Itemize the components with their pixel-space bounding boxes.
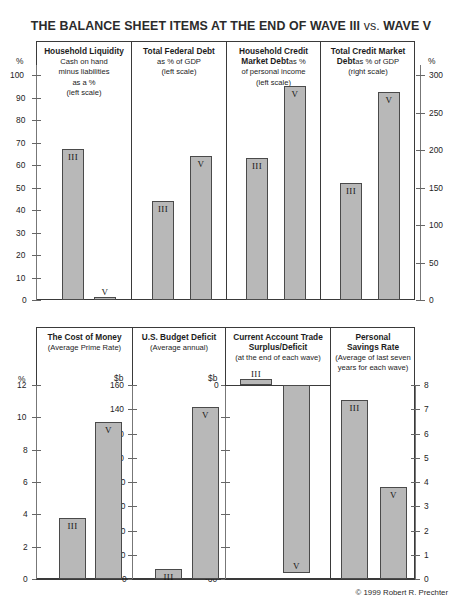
bottom-usd-axis	[132, 385, 133, 579]
bottom-savings-tick-7: 7	[424, 405, 429, 413]
bar-label-V: V	[381, 490, 406, 500]
bottom-pct-tick-12: 12	[17, 381, 26, 389]
bar-cost-of-money-III: III	[59, 518, 86, 579]
panel-personal-savings-title2: Savings Rate	[347, 342, 399, 352]
panel-total-federal-debt-header: Total Federal Debt as % of GDP (left sca…	[133, 46, 225, 77]
bottom-divider-3	[330, 327, 331, 579]
panel-total-credit-market-title: Total Credit Market	[331, 46, 406, 56]
panel-total-federal-debt-sub-1: (left scale)	[161, 67, 196, 76]
copyright-notice: © 1999 Robert R. Prechter	[356, 588, 448, 597]
bottom-usd-tick-0: 0	[122, 575, 127, 583]
panel-personal-savings-sub-0: (Average of last seven	[335, 353, 410, 362]
top-divider-2	[226, 41, 227, 300]
chart-page: THE BALANCE SHEET ITEMS AT THE END OF WA…	[0, 0, 462, 611]
bar-label-III: III	[60, 521, 85, 531]
bar-total-federal-debt-III: III	[152, 201, 174, 300]
bottom-pct-tick-10: 10	[17, 413, 26, 421]
top-right-axis	[420, 65, 421, 300]
bar-personal-savings-V: V	[380, 487, 407, 579]
panel-total-credit-market-title2: Debt	[337, 56, 355, 66]
top-left-tick-30: 30	[16, 229, 25, 237]
bottom-trade-tick-0: 0	[214, 381, 219, 389]
panel-total-federal-debt-title: Total Federal Debt	[143, 46, 215, 56]
bar-total-federal-debt-V: V	[190, 156, 212, 300]
bar-label-V: V	[96, 425, 121, 435]
bottom-savings-tick-2: 2	[424, 527, 429, 535]
panel-household-credit-sub-0: as %	[289, 57, 306, 66]
bottom-savings-tick-1: 1	[424, 551, 429, 559]
panel-current-account-title2: Surplus/Deficit	[249, 342, 308, 352]
bar-us-budget-deficit-III: III	[155, 569, 182, 579]
bar-label-V: V	[191, 159, 211, 169]
panel-cost-of-money-sub-0: (Average Prime Rate)	[48, 343, 121, 352]
panel-total-credit-market-sub-1: (right scale)	[348, 67, 388, 76]
panel-total-federal-debt-sub-0: as % of GDP	[157, 57, 201, 66]
top-left-axis	[36, 65, 37, 300]
bottom-savings-tick-4: 4	[424, 478, 429, 486]
top-divider-1	[131, 41, 132, 300]
bottom-usd-tick-140: 140	[110, 405, 124, 413]
bottom-pct-tick-4: 4	[23, 510, 28, 518]
panel-us-budget-deficit-sub-0: (Average annual)	[150, 343, 208, 352]
title-bold-prefix: THE BALANCE SHEET ITEMS AT THE END OF WA…	[31, 19, 364, 33]
top-divider-3	[320, 41, 321, 300]
panel-household-liquidity-sub-0: Cash on hand	[60, 57, 107, 66]
panel-current-account-title: Current Account Trade	[233, 332, 323, 342]
bar-current-account-V: V	[283, 385, 310, 573]
panel-personal-savings-header: Personal Savings Rate (Average of last s…	[332, 332, 414, 373]
top-right-axis-caption: %	[428, 57, 435, 65]
top-left-tick-90: 90	[16, 94, 25, 102]
panel-household-liquidity-sub-2: as a %	[72, 78, 95, 87]
top-right-tick-300: 300	[429, 71, 443, 79]
bar-label-III: III	[156, 572, 181, 582]
panel-us-budget-deficit-title: U.S. Budget Deficit	[142, 332, 217, 342]
bar-total-credit-market-III: III	[340, 183, 362, 300]
bottom-pct-tick-0: 0	[23, 575, 28, 583]
panel-cost-of-money-header: The Cost of Money (Average Prime Rate)	[38, 332, 131, 352]
bar-label-III: III	[63, 152, 83, 162]
bar-cost-of-money-V: V	[95, 422, 122, 579]
top-left-tick-70: 70	[16, 139, 25, 147]
top-left-tick-60: 60	[16, 161, 25, 169]
panel-household-liquidity-sub-1: minus liabilities	[58, 67, 109, 76]
panel-personal-savings-title: Personal	[355, 332, 390, 342]
top-right-tick-250: 250	[429, 109, 443, 117]
panel-total-credit-market-sub-0: as % of GDP	[355, 57, 399, 66]
bottom-pct-tick-8: 8	[23, 446, 28, 454]
bar-label-III: III	[247, 161, 267, 171]
bottom-usd-tick-160: 160	[110, 381, 124, 389]
panel-household-liquidity-title: Household Liquidity	[44, 46, 124, 56]
panel-household-liquidity-sub-3: (left scale)	[66, 88, 101, 97]
bottom-savings-axis	[415, 385, 416, 579]
bar-household-credit-III: III	[246, 158, 268, 300]
bottom-savings-tick-8: 8	[424, 381, 429, 389]
title-bold-suffix: WAVE V	[380, 19, 431, 33]
top-left-tick-10: 10	[16, 274, 25, 282]
top-left-axis-caption: %	[16, 57, 23, 65]
top-left-tick-0: 0	[22, 296, 27, 304]
panel-household-credit-sub-1: of personal income	[241, 67, 305, 76]
top-right-tick-50: 50	[429, 259, 438, 267]
bottom-savings-tick-3: 3	[424, 502, 429, 510]
bar-label-III: III	[153, 204, 173, 214]
bottom-trade-zeroline	[225, 385, 330, 386]
bar-household-liquidity-III: III	[62, 149, 84, 300]
bar-us-budget-deficit-V: V	[192, 407, 219, 579]
bar-personal-savings-III: III	[341, 400, 368, 579]
panel-household-credit-title: Household Credit	[239, 46, 308, 56]
bar-label-III: III	[342, 403, 367, 413]
panel-personal-savings-sub-1: years for each wave)	[338, 363, 408, 372]
bottom-pct-axis	[36, 385, 37, 579]
bar-label-V: V	[285, 89, 305, 99]
bottom-pct-tick-6: 6	[23, 478, 28, 486]
page-title: THE BALANCE SHEET ITEMS AT THE END OF WA…	[0, 19, 462, 33]
bottom-savings-tick-0: 0	[424, 575, 429, 583]
bar-label-V: V	[379, 95, 399, 105]
top-left-tick-40: 40	[16, 206, 25, 214]
bar-label-V: V	[193, 410, 218, 420]
top-left-tick-20: 20	[16, 251, 25, 259]
bar-label-III: III	[241, 369, 271, 379]
top-right-tick-200: 200	[429, 146, 443, 154]
top-left-tick-50: 50	[16, 184, 25, 192]
bar-household-liquidity-V: V	[94, 297, 116, 300]
